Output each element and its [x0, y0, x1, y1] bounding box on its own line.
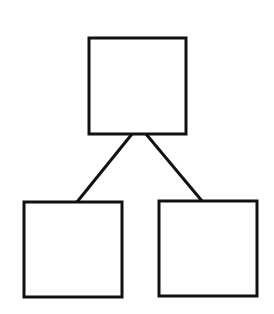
- tree-diagram: [0, 0, 274, 314]
- edge-root-to-left-child: [77, 134, 132, 202]
- node-box-root: [89, 38, 186, 134]
- diagram-canvas: [0, 0, 274, 314]
- edge-root-to-right-child: [146, 134, 202, 201]
- node-box-right-child: [159, 201, 257, 296]
- node-left-child: [24, 202, 122, 297]
- edges-layer: [77, 134, 202, 202]
- nodes-layer: [24, 38, 257, 297]
- node-root: [89, 38, 186, 134]
- node-box-left-child: [24, 202, 122, 297]
- node-right-child: [159, 201, 257, 296]
